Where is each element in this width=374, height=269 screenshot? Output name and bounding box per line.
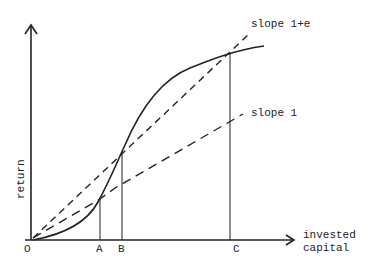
diagram-canvas: O A B C invested capital return slope 1+…: [0, 0, 374, 269]
return-curve: [33, 46, 264, 240]
point-c-label: C: [233, 243, 240, 255]
dashed-line-slope-1-plus-e: [33, 33, 250, 238]
point-b-label: B: [118, 243, 125, 255]
x-axis: [25, 235, 294, 245]
y-axis: [25, 25, 37, 240]
origin-label: O: [24, 243, 31, 255]
y-axis-label: return: [15, 159, 27, 199]
point-a-label: A: [96, 243, 103, 255]
x-axis-label-line2: capital: [303, 242, 349, 254]
slope-lower-label: slope 1: [251, 107, 297, 119]
x-axis-label-line1: invested: [303, 229, 356, 241]
slope-upper-label: slope 1+e: [251, 18, 310, 30]
dashed-line-slope-1: [33, 114, 243, 238]
